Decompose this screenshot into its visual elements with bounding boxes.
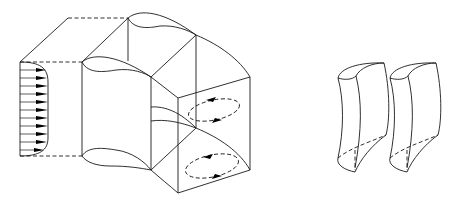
curved-segment-1 (338, 63, 389, 172)
profile-arrows (20, 68, 48, 152)
vortex-upper (186, 95, 241, 125)
velocity-profile (20, 62, 48, 156)
vortex-lower (183, 150, 240, 183)
outlet-face (151, 77, 250, 193)
duct-bend-diagram (0, 0, 469, 200)
curved-segment-2 (390, 63, 441, 172)
duct-body (82, 13, 250, 193)
